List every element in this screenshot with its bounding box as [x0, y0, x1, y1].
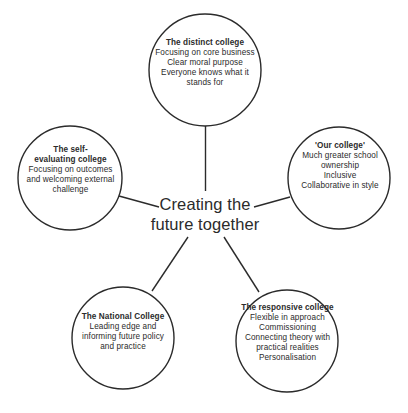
connector-to-responsive-college: [224, 237, 259, 292]
hub-label-line-1: Creating the: [140, 194, 270, 214]
hub-label: Creating the future together: [140, 194, 270, 234]
diagram-canvas: The distinct college Focusing on core bu…: [0, 0, 408, 413]
node-circle-our-college[interactable]: [288, 127, 390, 229]
node-circle-responsive-college[interactable]: [236, 290, 338, 392]
node-circle-national-college[interactable]: [72, 287, 174, 389]
node-circle-self-evaluating-college[interactable]: [18, 126, 122, 230]
node-circle-distinct-college[interactable]: [149, 14, 261, 126]
hub-label-line-2: future together: [140, 214, 270, 234]
connector-to-national-college: [152, 237, 188, 291]
